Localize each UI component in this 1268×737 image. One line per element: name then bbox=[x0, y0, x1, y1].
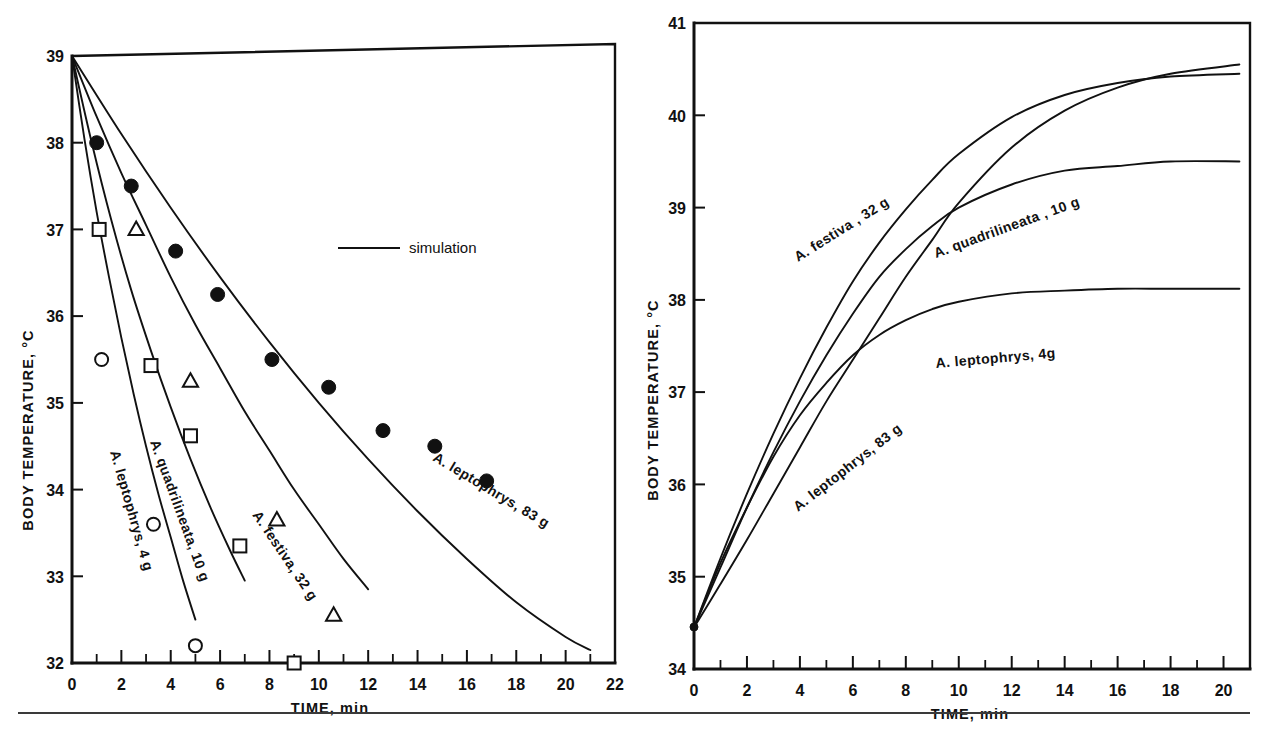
warming-x-ticklabels: 02468101214161820 bbox=[690, 682, 1233, 699]
data-point-filled-circle bbox=[90, 136, 104, 150]
cooling-legend: simulation bbox=[338, 239, 477, 256]
warming-label-quadrilineata-10g: A. quadrilineata , 10 g bbox=[932, 193, 1082, 261]
data-point-open-square bbox=[233, 539, 246, 552]
cooling-ytick-38: 38 bbox=[46, 135, 64, 152]
x-ticklabel: 14 bbox=[409, 676, 427, 693]
warming-ytick-34: 34 bbox=[668, 661, 686, 678]
cooling-x-ticks bbox=[72, 650, 615, 663]
figure-bottom-rule bbox=[18, 712, 1250, 714]
cooling-ytick-34: 34 bbox=[46, 482, 64, 499]
x-ticklabel: 20 bbox=[557, 676, 575, 693]
x-ticklabel: 22 bbox=[606, 676, 624, 693]
cooling-plot-frame bbox=[72, 44, 615, 663]
x-ticklabel: 4 bbox=[795, 682, 804, 699]
x-ticklabel: 2 bbox=[742, 682, 751, 699]
warming-y-axis-title: BODY TEMPERATURE, °C bbox=[645, 299, 661, 500]
x-ticklabel: 18 bbox=[1162, 682, 1180, 699]
data-point-filled-circle bbox=[211, 287, 225, 301]
x-ticklabel: 10 bbox=[950, 682, 968, 699]
x-ticklabel: 8 bbox=[901, 682, 910, 699]
x-ticklabel: 16 bbox=[458, 676, 476, 693]
data-point-open-triangle bbox=[183, 373, 198, 387]
warming-ytick-38: 38 bbox=[668, 292, 686, 309]
warming-curve-leptophrys-4g bbox=[694, 289, 1239, 628]
x-ticklabel: 6 bbox=[848, 682, 857, 699]
x-ticklabel: 18 bbox=[507, 676, 525, 693]
x-ticklabel: 8 bbox=[265, 676, 274, 693]
cooling-chart-panel: 39 38 37 36 35 34 33 32 0246810121416182… bbox=[0, 0, 640, 737]
cooling-data-markers bbox=[90, 136, 494, 670]
x-ticklabel: 2 bbox=[117, 676, 126, 693]
warming-curve-festiva-32g bbox=[694, 74, 1239, 628]
figure-root: 39 38 37 36 35 34 33 32 0246810121416182… bbox=[0, 0, 1268, 737]
x-ticklabel: 16 bbox=[1109, 682, 1127, 699]
warming-y-ticks bbox=[694, 23, 705, 669]
warming-chart-panel: 41 40 39 38 37 36 35 34 0246810121416182… bbox=[640, 0, 1268, 737]
x-ticklabel: 20 bbox=[1215, 682, 1233, 699]
data-point-filled-circle bbox=[265, 353, 279, 367]
warming-origin-point bbox=[690, 623, 698, 631]
warming-plot-frame bbox=[694, 23, 1250, 669]
data-point-open-triangle bbox=[326, 607, 341, 621]
warming-label-festiva-32g: A. festiva , 32 g bbox=[791, 193, 892, 264]
warming-ytick-36: 36 bbox=[668, 477, 686, 494]
cooling-y-ticks bbox=[72, 56, 83, 663]
data-point-open-square bbox=[93, 223, 106, 236]
warming-x-axis-title: TIME, min bbox=[931, 706, 1009, 722]
warming-x-ticks bbox=[694, 656, 1250, 669]
warming-ytick-37: 37 bbox=[668, 384, 686, 401]
data-point-open-circle bbox=[189, 639, 202, 652]
cooling-ytick-35: 35 bbox=[46, 395, 64, 412]
cooling-ytick-33: 33 bbox=[46, 569, 64, 586]
data-point-filled-circle bbox=[376, 424, 390, 438]
data-point-filled-circle bbox=[169, 244, 183, 258]
cooling-curve-quadrilineata-10g bbox=[72, 56, 245, 581]
x-ticklabel: 0 bbox=[690, 682, 699, 699]
data-point-filled-circle bbox=[124, 179, 138, 193]
data-point-filled-circle bbox=[322, 380, 336, 394]
warming-chart-svg: 41 40 39 38 37 36 35 34 0246810121416182… bbox=[640, 0, 1268, 737]
x-ticklabel: 14 bbox=[1056, 682, 1074, 699]
cooling-ytick-37: 37 bbox=[46, 222, 64, 239]
warming-label-leptophrys-4g: A. leptophrys, 4g bbox=[935, 345, 1056, 371]
x-ticklabel: 0 bbox=[68, 676, 77, 693]
data-point-open-triangle bbox=[129, 221, 144, 235]
x-ticklabel: 12 bbox=[359, 676, 377, 693]
cooling-label-leptophrys-4g: A. leptophrys, 4 g bbox=[107, 448, 157, 572]
x-ticklabel: 6 bbox=[216, 676, 225, 693]
cooling-x-ticklabels: 0246810121416182022 bbox=[68, 676, 624, 693]
cooling-label-quadrilineata-10g: A. quadrilineata, 10 g bbox=[147, 438, 213, 584]
data-point-open-circle bbox=[95, 353, 108, 366]
x-ticklabel: 4 bbox=[166, 676, 175, 693]
cooling-ytick-32: 32 bbox=[46, 655, 64, 672]
cooling-ytick-36: 36 bbox=[46, 308, 64, 325]
cooling-chart-svg: 39 38 37 36 35 34 33 32 0246810121416182… bbox=[0, 0, 640, 737]
data-point-open-square bbox=[144, 359, 157, 372]
warming-ytick-39: 39 bbox=[668, 200, 686, 217]
cooling-ytick-39: 39 bbox=[46, 48, 64, 65]
x-ticklabel: 10 bbox=[310, 676, 328, 693]
warming-ytick-41: 41 bbox=[668, 15, 686, 32]
data-point-open-square bbox=[184, 429, 197, 442]
data-point-open-circle bbox=[147, 518, 160, 531]
x-ticklabel: 12 bbox=[1003, 682, 1021, 699]
cooling-y-axis-title: BODY TEMPERATURE, °C bbox=[20, 329, 36, 530]
warming-ytick-40: 40 bbox=[668, 108, 686, 125]
warming-ytick-35: 35 bbox=[668, 569, 686, 586]
cooling-curve-festiva-32g bbox=[72, 56, 368, 589]
cooling-y-ticklabels: 39 38 37 36 35 34 33 32 bbox=[46, 48, 64, 672]
cooling-label-leptophrys-83g: A. leptophrys, 83 g bbox=[430, 449, 552, 531]
cooling-label-festiva-32g: A. festiva, 32 g bbox=[250, 508, 322, 604]
data-point-open-square bbox=[288, 657, 301, 670]
simulation-legend-label: simulation bbox=[409, 239, 477, 256]
warming-curve-quadrilineata-10g bbox=[694, 161, 1239, 627]
warming-y-ticklabels: 41 40 39 38 37 36 35 34 bbox=[668, 15, 686, 678]
